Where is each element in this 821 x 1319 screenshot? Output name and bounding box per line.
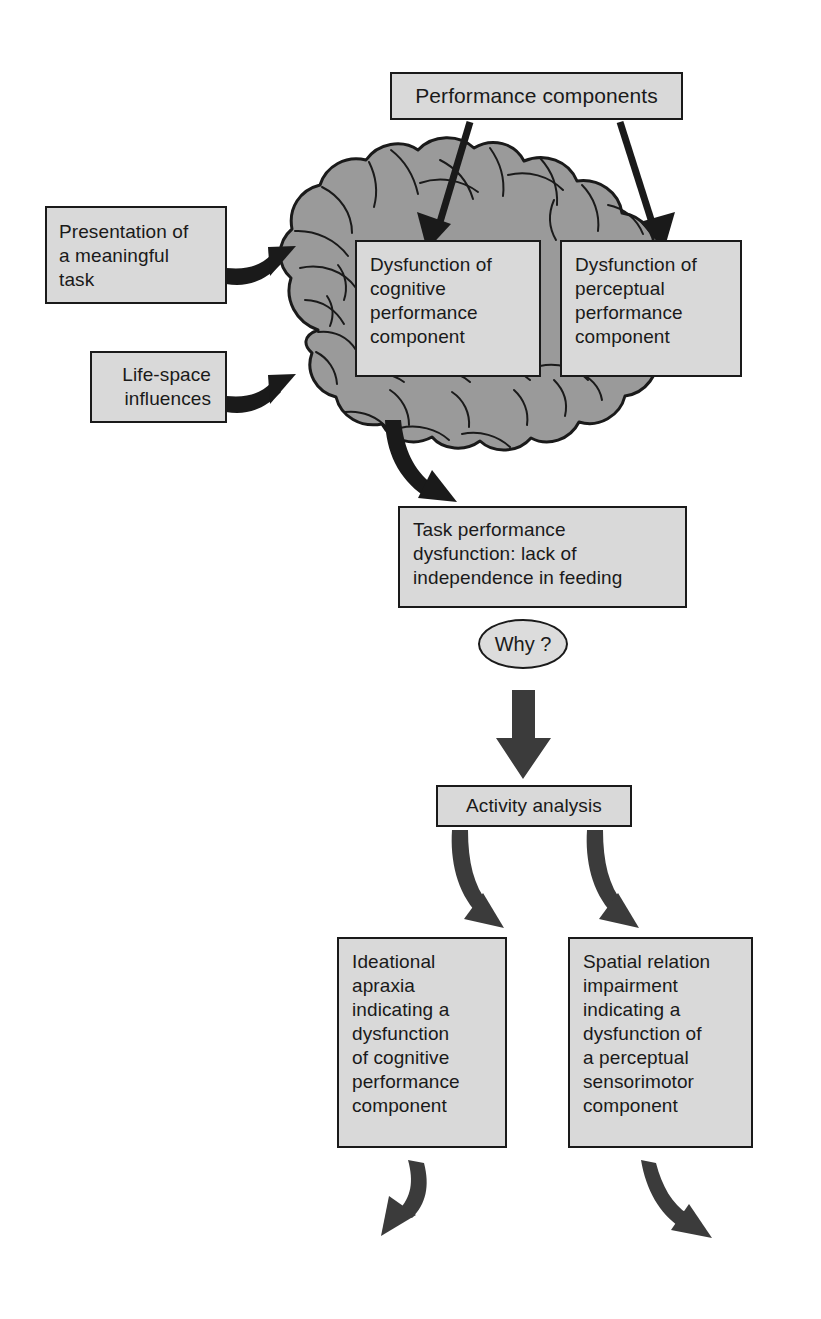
edge-activity-to-ideational xyxy=(452,830,504,928)
node-activity-analysis: Activity analysis xyxy=(436,785,632,827)
node-presentation-of-a-meaningful-task: Presentation of a meaningful task xyxy=(45,206,227,304)
node-task-performance-dysfunction: Task performance dysfunction: lack of in… xyxy=(398,506,687,608)
node-spatial-relation-impairment: Spatial relation impairment indicating a… xyxy=(568,937,753,1148)
diagram-canvas: Performance components Presentation of a… xyxy=(0,0,821,1319)
edge-ideational-out xyxy=(381,1160,427,1236)
node-dysfunction-of-perceptual-performance-component: Dysfunction of perceptual performance co… xyxy=(560,240,742,377)
edge-why-to-activity xyxy=(496,690,551,779)
node-ideational-apraxia: Ideational apraxia indicating a dysfunct… xyxy=(337,937,507,1148)
node-performance-components: Performance components xyxy=(390,72,683,120)
node-dysfunction-of-cognitive-performance-component: Dysfunction of cognitive performance com… xyxy=(355,240,541,377)
edge-spatial-out xyxy=(641,1160,712,1238)
node-life-space-influences: Life-space influences xyxy=(90,351,227,423)
edge-lifespace-to-brain xyxy=(226,374,296,413)
edge-activity-to-spatial xyxy=(587,830,639,928)
node-why-ellipse: Why ? xyxy=(478,619,568,669)
